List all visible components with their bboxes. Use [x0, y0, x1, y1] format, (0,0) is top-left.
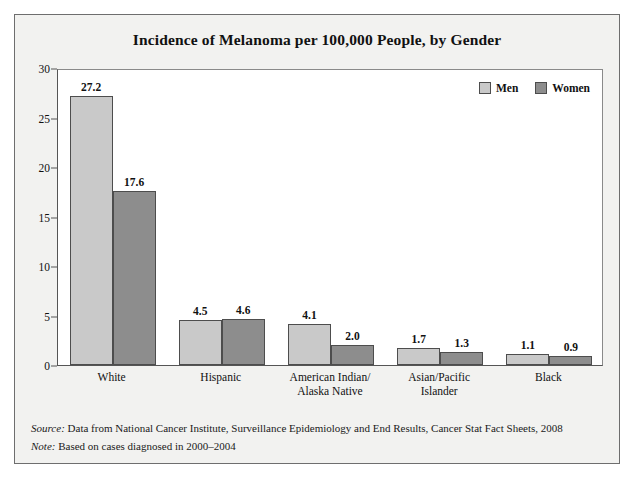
legend-label: Men: [496, 82, 518, 94]
bar-women[interactable]: 17.6: [113, 191, 156, 365]
bar-value-label: 27.2: [81, 81, 101, 93]
bar-value-label: 2.0: [345, 330, 359, 342]
footnote-text: Data from National Cancer Institute, Sur…: [65, 422, 563, 434]
bar-group: 1.71.3: [386, 70, 495, 365]
y-axis-tick-label: 25: [39, 113, 51, 125]
x-axis-category-labels: WhiteHispanicAmerican Indian/Alaska Nati…: [57, 370, 603, 414]
bar-value-label: 4.6: [236, 304, 250, 316]
bar-men[interactable]: 4.5: [179, 320, 222, 365]
bar-group: 27.217.6: [58, 70, 167, 365]
bars-layer: 27.217.64.54.64.12.01.71.31.10.9: [58, 70, 602, 365]
footnotes: Source: Data from National Cancer Instit…: [31, 419, 605, 455]
y-axis-tick-label: 10: [39, 261, 51, 273]
footnote-text: Based on cases diagnosed in 2000–2004: [55, 440, 235, 452]
footnote-label: Note:: [31, 440, 55, 452]
bar-value-label: 0.9: [564, 341, 578, 353]
bar-value-label: 1.7: [412, 333, 426, 345]
bar-value-label: 4.1: [302, 309, 316, 321]
bar-men[interactable]: 1.7: [397, 348, 440, 365]
plot-area: 27.217.64.54.64.12.01.71.31.10.9 MenWome…: [57, 69, 603, 366]
figure-frame: Incidence of Melanoma per 100,000 People…: [14, 14, 620, 464]
bar-men[interactable]: 1.1: [506, 354, 549, 365]
bar-value-label: 17.6: [124, 176, 144, 188]
x-axis-label: Black: [483, 370, 613, 384]
legend-label: Women: [552, 82, 590, 94]
bar-women[interactable]: 2.0: [331, 345, 374, 365]
y-axis-tick-label: 15: [39, 212, 51, 224]
bar-group: 4.54.6: [167, 70, 276, 365]
y-axis-tick-label: 30: [39, 63, 51, 75]
bar-group: 1.10.9: [495, 70, 604, 365]
y-axis-tick-label: 5: [44, 311, 50, 323]
y-axis-tick-label: 20: [39, 162, 51, 174]
legend-item-men[interactable]: Men: [479, 82, 518, 94]
legend-swatch-icon: [535, 82, 547, 94]
x-axis-label-line: Black: [483, 370, 613, 384]
y-axis: 051015202530: [15, 69, 57, 366]
bar-men[interactable]: 27.2: [70, 96, 113, 365]
x-axis-label-line: Islander: [374, 384, 504, 398]
footnote: Source: Data from National Cancer Instit…: [31, 419, 605, 437]
bar-value-label: 1.3: [455, 337, 469, 349]
chart-title: Incidence of Melanoma per 100,000 People…: [15, 31, 619, 49]
bar-group: 4.12.0: [276, 70, 385, 365]
bar-women[interactable]: 1.3: [440, 352, 483, 365]
legend-swatch-icon: [479, 82, 491, 94]
footnote: Note: Based on cases diagnosed in 2000–2…: [31, 437, 605, 455]
legend-item-women[interactable]: Women: [535, 82, 590, 94]
bar-women[interactable]: 0.9: [549, 356, 592, 365]
footnote-label: Source:: [31, 422, 65, 434]
bar-women[interactable]: 4.6: [222, 319, 265, 365]
bar-value-label: 4.5: [193, 305, 207, 317]
chart-legend: MenWomen: [479, 82, 590, 94]
bar-men[interactable]: 4.1: [288, 324, 331, 365]
bar-value-label: 1.1: [521, 339, 535, 351]
